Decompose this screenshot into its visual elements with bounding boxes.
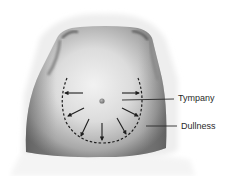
dullness-label: Dullness xyxy=(181,122,216,131)
abdomen-illustration xyxy=(0,0,235,176)
navel xyxy=(99,98,104,103)
tympany-label: Tympany xyxy=(178,94,215,103)
